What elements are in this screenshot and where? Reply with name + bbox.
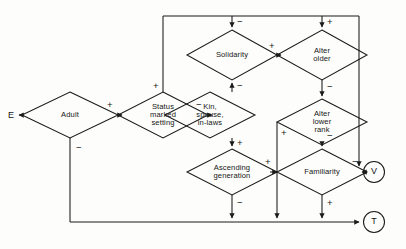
node-adult-shape [22, 92, 118, 138]
terminal-t-label: T [368, 216, 380, 226]
sign-adult-down: − [76, 143, 82, 153]
sign-kin-to-solidarity: − [237, 81, 243, 91]
node-solidarity-shape [187, 30, 277, 80]
sign-status-to-kin: − [196, 100, 202, 110]
sign-alter-older-top: + [327, 17, 333, 27]
node-status-shape [118, 92, 208, 138]
node-alter-older-shape [277, 30, 367, 80]
sign-solidarity-to-alter-older: + [269, 41, 275, 51]
sign-alter-older-to-alter-lower: − [327, 82, 333, 92]
node-ascending-shape [187, 149, 277, 195]
sign-ascending-to-familiarity: + [265, 157, 271, 167]
terminal-v-label: V [368, 166, 380, 176]
sign-solidarity-top: − [237, 17, 243, 27]
sign-kin-to-ascending: + [237, 138, 243, 148]
sign-alter-lower-to-familiarity: − [327, 131, 333, 141]
node-alter-lower-shape [277, 99, 367, 145]
sign-ascending-down: − [237, 198, 243, 208]
causal-diagram: Adult Status marked setting Kin, spouse,… [0, 0, 406, 249]
sign-familiarity-down: + [327, 198, 333, 208]
terminal-e-label: E [5, 110, 17, 120]
sign-familiarity-to-v: − [352, 157, 358, 167]
sign-alter-lower-left: + [281, 128, 287, 138]
sign-adult-to-status: + [107, 100, 113, 110]
diagram-canvas [0, 0, 406, 249]
sign-status-up: + [153, 81, 159, 91]
